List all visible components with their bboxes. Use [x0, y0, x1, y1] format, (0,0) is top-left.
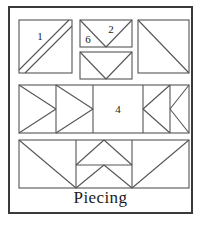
patch-label-4: 4 [115, 103, 121, 115]
patch-label-2: 2 [108, 23, 114, 35]
piecing-figure: 1 2 6 4 Piecing [0, 0, 201, 225]
unit-flying-geese-plain [80, 52, 132, 79]
diagram-frame: 1 2 6 4 Piecing [8, 6, 193, 214]
piecing-diagram: 1 2 6 4 [10, 8, 195, 216]
figure-caption: Piecing [10, 189, 191, 206]
middle-row [19, 85, 189, 133]
unit-square-diagonal-band [19, 20, 72, 73]
patch-label-1: 1 [37, 30, 43, 42]
unit-half-square-triangle [138, 20, 189, 73]
patch-label-6: 6 [85, 33, 91, 45]
bottom-row [19, 140, 189, 188]
